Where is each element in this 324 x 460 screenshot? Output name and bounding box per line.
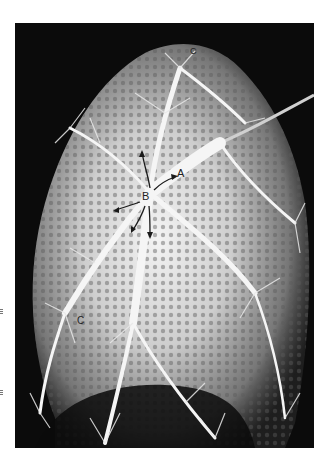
label-c-bottom: C [77, 316, 84, 326]
label-b: B [142, 191, 149, 202]
annotation-arrows [0, 0, 324, 460]
label-a: A [177, 168, 184, 179]
label-c-top: C [190, 47, 197, 56]
